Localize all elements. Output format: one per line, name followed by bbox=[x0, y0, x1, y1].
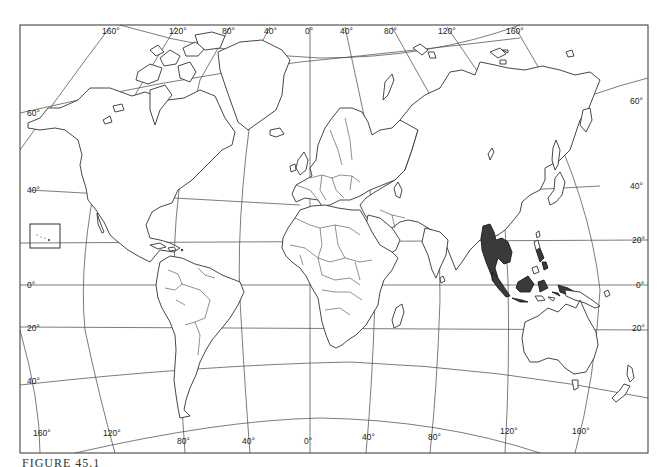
ireland bbox=[290, 164, 296, 172]
svg-text:120°: 120° bbox=[169, 26, 187, 36]
hawaii-inset bbox=[30, 224, 60, 248]
svg-text:40°: 40° bbox=[340, 26, 353, 36]
svg-text:60°: 60° bbox=[630, 96, 643, 106]
svg-text:20°: 20° bbox=[27, 323, 40, 333]
svg-text:120°: 120° bbox=[438, 26, 456, 36]
new-zealand-north bbox=[627, 365, 634, 382]
latitude-labels-right: 60° 40° 20° 0° 20° bbox=[630, 96, 645, 333]
svg-text:160°: 160° bbox=[33, 428, 51, 438]
british-isles bbox=[296, 152, 308, 175]
philippines bbox=[534, 240, 540, 250]
tasmania bbox=[572, 380, 578, 390]
svg-text:60°: 60° bbox=[27, 108, 40, 118]
greenland bbox=[218, 40, 290, 130]
svg-text:0°: 0° bbox=[304, 436, 312, 446]
svg-text:160°: 160° bbox=[102, 26, 120, 36]
svg-text:20°: 20° bbox=[632, 323, 645, 333]
india bbox=[422, 228, 448, 278]
north-america bbox=[28, 88, 235, 262]
southeast-asia-highlight bbox=[481, 224, 575, 302]
svg-text:120°: 120° bbox=[500, 426, 518, 436]
taiwan bbox=[536, 231, 540, 238]
svg-text:40°: 40° bbox=[27, 185, 40, 195]
svg-text:40°: 40° bbox=[27, 376, 40, 386]
svg-text:160°: 160° bbox=[506, 26, 524, 36]
longitude-labels-top: 160° 120° 80° 40° 0° 40° 80° 120° 160° bbox=[102, 26, 524, 36]
svg-text:40°: 40° bbox=[264, 26, 277, 36]
iceland bbox=[270, 128, 284, 137]
svg-text:80°: 80° bbox=[177, 436, 190, 446]
svg-text:40°: 40° bbox=[242, 436, 255, 446]
svg-text:80°: 80° bbox=[428, 432, 441, 442]
world-map: 160° 120° 80° 40° 0° 40° 80° 120° 160° 1… bbox=[0, 0, 662, 467]
new-zealand-south bbox=[612, 384, 630, 402]
svg-text:80°: 80° bbox=[222, 26, 235, 36]
latitude-labels-left: 60° 40° 0° 20° 40° bbox=[27, 108, 40, 386]
svg-text:120°: 120° bbox=[103, 428, 121, 438]
svg-text:20°: 20° bbox=[632, 235, 645, 245]
svg-text:40°: 40° bbox=[630, 181, 643, 191]
madagascar bbox=[392, 304, 404, 328]
figure-caption: FIGURE 45.1 bbox=[22, 456, 100, 467]
svg-text:80°: 80° bbox=[384, 26, 397, 36]
sri-lanka bbox=[440, 276, 445, 283]
svg-text:0°: 0° bbox=[636, 280, 644, 290]
svg-text:0°: 0° bbox=[305, 26, 313, 36]
australia bbox=[522, 300, 598, 374]
svg-text:0°: 0° bbox=[27, 280, 35, 290]
svg-text:160°: 160° bbox=[572, 426, 590, 436]
svg-text:40°: 40° bbox=[362, 432, 375, 442]
